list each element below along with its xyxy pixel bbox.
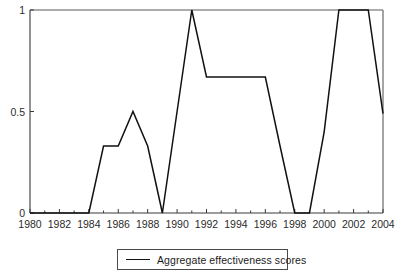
x-axis-tick-label: 2004 (363, 219, 401, 230)
y-axis-tick-label: 0.5 (10, 107, 25, 118)
y-axis-tick-marks (30, 10, 34, 213)
plot-frame (30, 10, 383, 213)
y-axis-tick-label: 1 (19, 5, 25, 16)
chart-figure: 00.51 1980198219841986198819901992199419… (0, 0, 401, 280)
legend-item-aggregate-effectiveness-scores: Aggregate effectiveness scores (118, 250, 287, 269)
chart-legend: Aggregate effectiveness scores (117, 249, 288, 270)
legend-item-label: Aggregate effectiveness scores (157, 254, 306, 266)
series-line-aggregate-effectiveness-scores (30, 10, 383, 213)
line-chart-canvas (0, 0, 401, 280)
data-series-group (30, 10, 383, 213)
y-axis-tick-label: 0 (19, 208, 25, 219)
legend-line-swatch-icon (126, 259, 150, 260)
